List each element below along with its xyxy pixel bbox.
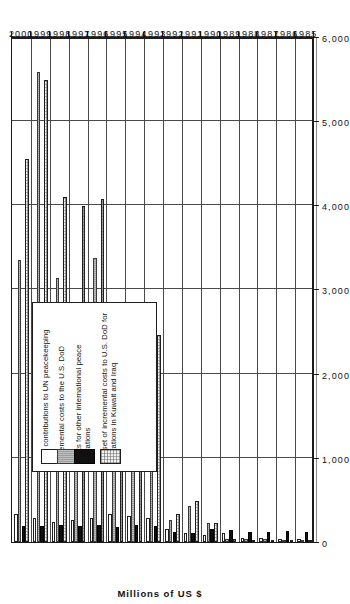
- value-gridline: [12, 204, 312, 205]
- value-gridline: [12, 120, 312, 121]
- category-axis-tick: [313, 32, 314, 38]
- legend-item-2: Costs for other international peace oper…: [74, 310, 93, 464]
- value-axis-tick: [313, 290, 319, 291]
- value-axis-tick: [313, 458, 319, 459]
- category-gridline: [239, 39, 240, 542]
- category-gridline: [220, 39, 221, 542]
- bar-1987-series-3: [271, 540, 274, 542]
- legend-item-1: Incremental costs to the U.S. DoD: [57, 310, 66, 464]
- bar-1992-series-3: [176, 514, 179, 542]
- category-gridline: [163, 39, 164, 542]
- legend-label: Incremental costs to the U.S. DoD: [57, 346, 66, 464]
- legend-label: U.S. contributions to UN peacekeeping: [41, 329, 50, 464]
- value-axis-tick: [313, 121, 319, 122]
- value-axis-line-shadow: [316, 38, 317, 543]
- category-gridline: [182, 39, 183, 542]
- bar-1986-series-3: [290, 540, 293, 542]
- legend-item-3: Subset of incremental costs to U.S. DoD …: [100, 310, 119, 464]
- value-axis-tick-label: 0: [322, 539, 328, 549]
- value-axis-tick-label: 1,000: [322, 455, 350, 465]
- bar-1988-series-3: [252, 540, 255, 542]
- bar-1991-series-3: [195, 501, 198, 542]
- bar-2000-series-3: [25, 159, 28, 542]
- legend-swatch-black: [74, 449, 95, 464]
- bar-1989-series-3: [233, 539, 236, 542]
- legend-label: Costs for other international peace oper…: [74, 310, 93, 464]
- category-gridline: [276, 39, 277, 542]
- value-axis-tick: [313, 374, 319, 375]
- value-axis-tick-label: 4,000: [322, 202, 350, 212]
- bar-1985-series-3: [308, 540, 311, 542]
- legend-item-0: U.S. contributions to UN peacekeeping: [41, 310, 50, 464]
- category-axis-label-2000: 2000: [9, 29, 33, 39]
- bar-1990-series-3: [214, 523, 217, 542]
- legend-label: Subset of incremental costs to U.S. DoD …: [100, 310, 119, 464]
- value-axis-tick: [313, 542, 319, 543]
- value-axis-tick: [313, 205, 319, 206]
- value-axis-title: Millions of US $: [117, 588, 202, 599]
- value-axis-tick-label: 5,000: [322, 118, 350, 128]
- category-gridline: [295, 39, 296, 542]
- bar-1993-series-3: [157, 335, 160, 542]
- value-axis-line: [313, 38, 314, 543]
- value-axis-tick-label: 3,000: [322, 287, 350, 297]
- value-axis-tick-label: 2,000: [322, 371, 350, 381]
- value-axis-tick-label: 6,000: [322, 34, 350, 44]
- chart-legend: U.S. contributions to UN peacekeepingInc…: [32, 302, 157, 472]
- legend-swatch-dotted-outline: [100, 449, 121, 464]
- category-gridline: [201, 39, 202, 542]
- bar-2000-series-1: [18, 260, 21, 542]
- category-gridline: [257, 39, 258, 542]
